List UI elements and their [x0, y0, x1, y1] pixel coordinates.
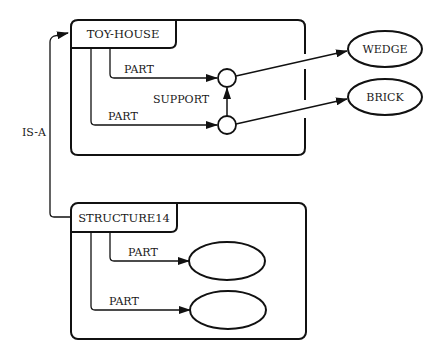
part-label-toy-house-1: PART	[124, 63, 154, 76]
toy-house-frame: TOY-HOUSE PART PART SUPPORT	[71, 20, 305, 155]
edge-to-wedge	[236, 51, 347, 76]
part-label-toy-house-2: PART	[108, 110, 138, 123]
part-label-structure14-1: PART	[128, 246, 158, 259]
support-label: SUPPORT	[153, 93, 210, 106]
semantic-network-diagram: TOY-HOUSE PART PART SUPPORT WEDGE BRICK …	[0, 0, 447, 360]
node-b-circle	[218, 116, 236, 134]
brick-label: BRICK	[366, 91, 404, 104]
edge-to-brick	[236, 99, 347, 124]
is-a-edge	[50, 33, 71, 217]
brick-node: BRICK	[348, 79, 422, 115]
toy-house-label: TOY-HOUSE	[87, 27, 160, 41]
is-a-label: IS-A	[22, 126, 47, 139]
part-label-structure14-2: PART	[109, 295, 139, 308]
structure14-label: STRUCTURE14	[78, 211, 170, 225]
structure14-frame: STRUCTURE14 PART PART	[71, 203, 306, 339]
wedge-label: WEDGE	[363, 43, 408, 56]
empty-part-ellipse-1	[189, 242, 265, 280]
node-a-circle	[218, 69, 236, 87]
empty-part-ellipse-2	[190, 291, 266, 329]
part-edge-structure14-2	[91, 232, 190, 310]
wedge-node: WEDGE	[348, 31, 422, 67]
